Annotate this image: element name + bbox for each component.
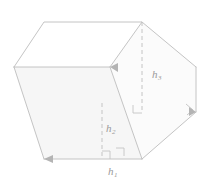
h1-subscript: 1 bbox=[114, 171, 118, 179]
h1-base: h bbox=[108, 165, 114, 177]
h2-base: h bbox=[106, 122, 112, 134]
h2-subscript: 2 bbox=[112, 128, 116, 136]
height-label-h2: h2 bbox=[106, 123, 115, 134]
shaded-faces bbox=[14, 22, 196, 159]
h3-subscript: 3 bbox=[158, 74, 162, 82]
height-label-h1: h1 bbox=[108, 166, 117, 177]
h3-base: h bbox=[152, 68, 158, 80]
height-label-h3: h3 bbox=[152, 69, 161, 80]
geometry-figure: h3 h2 h1 bbox=[0, 0, 211, 185]
prism-drawing bbox=[0, 0, 211, 185]
